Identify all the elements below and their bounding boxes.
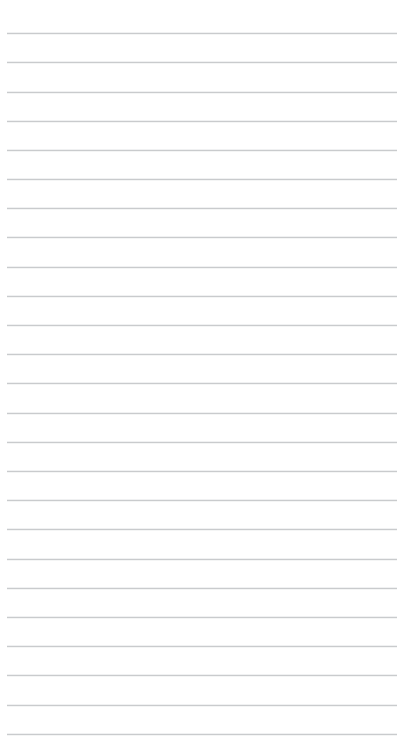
ruled-paper-page (0, 0, 405, 742)
writing-area[interactable] (0, 0, 405, 742)
